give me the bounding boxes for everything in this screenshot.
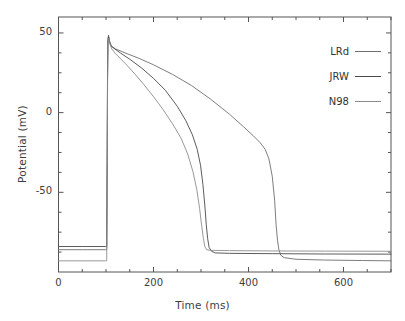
legend-entry-jrw[interactable]: JRW [271,69,381,83]
legend-label: LRd [330,46,349,57]
x-tick-label-0: 0 [39,277,79,288]
y-tick-label-50: 50 [12,26,52,37]
legend-label: N98 [329,96,349,107]
legend-line-swatch [355,76,381,77]
x-tick-label-600: 600 [324,277,364,288]
x-axis-title: Time (ms) [0,299,405,311]
legend-entry-n98[interactable]: N98 [271,94,381,108]
legend-label: JRW [330,71,349,82]
legend-line-swatch [355,51,381,52]
x-tick-label-200: 200 [134,277,174,288]
y-tick-label-0: 0 [12,106,52,117]
legend-line-swatch [355,101,381,102]
action-potential-chart: Potential (mV) Time (ms) 0200400600500-5… [0,0,405,321]
x-tick-label-400: 400 [229,277,269,288]
legend-entry-lrd[interactable]: LRd [271,44,381,58]
y-tick-label-neg50: -50 [12,185,52,196]
